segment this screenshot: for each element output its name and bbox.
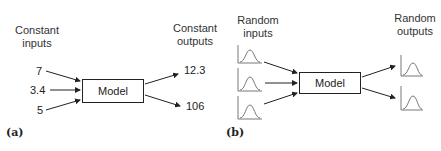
output-arrows-b (362, 66, 395, 98)
input-arrows-b (264, 62, 297, 104)
distribution-icon (401, 86, 423, 110)
output-arrows-a (145, 74, 180, 106)
distribution-icon (238, 96, 262, 119)
input-arrows-a (46, 71, 80, 110)
distribution-icon (238, 68, 262, 91)
distribution-icon (238, 45, 262, 63)
distribution-icon (401, 55, 423, 76)
diagram-graphics (0, 0, 441, 151)
